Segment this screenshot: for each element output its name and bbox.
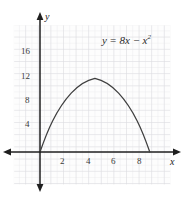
- equation-minus: −: [130, 34, 142, 46]
- x-tick-label-2: 2: [60, 157, 65, 166]
- x-tick-label-8: 8: [137, 157, 142, 166]
- equation-equals: =: [107, 34, 119, 46]
- equation-term2-exponent: 2: [148, 33, 152, 41]
- x-tick-label-4: 4: [86, 157, 91, 166]
- x-axis-label: x: [170, 157, 174, 167]
- x-tick-label-6: 6: [111, 157, 116, 166]
- y-tick-label-12: 12: [21, 72, 30, 81]
- y-axis-label: y: [45, 12, 49, 22]
- grid-background: [13, 25, 171, 185]
- equation-annotation: y = 8x − x2: [102, 34, 151, 46]
- y-tick-label-16: 16: [21, 47, 30, 56]
- y-tick-label-4: 4: [25, 120, 30, 129]
- equation-term1: 8x: [119, 34, 130, 46]
- graph-figure: 16 12 8 4 2 4 6 8 y x y = 8x − x2: [0, 0, 184, 197]
- y-tick-label-8: 8: [25, 96, 30, 105]
